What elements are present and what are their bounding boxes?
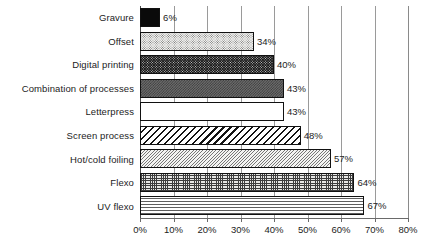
bar [140, 32, 254, 51]
bar-value-label: 6% [163, 12, 177, 23]
x-tick-label: 10% [164, 224, 183, 236]
category-label: Flexo [0, 177, 134, 188]
bar [140, 173, 354, 192]
bar-value-label: 40% [277, 59, 296, 70]
bar [140, 8, 160, 27]
bar-value-label: 64% [357, 177, 376, 188]
bar-row: Combination of processes43% [0, 77, 424, 101]
category-label: Digital printing [0, 59, 134, 70]
bar-with-value: 43% [140, 79, 306, 98]
bar-row: Gravure6% [0, 6, 424, 30]
x-tick-label: 0% [133, 224, 147, 236]
bar-with-value: 67% [140, 196, 386, 215]
x-axis-tick-labels: 0%10%20%30%40%50%60%70%80% [0, 224, 424, 238]
bar-value-label: 43% [287, 83, 306, 94]
bar-with-value: 48% [140, 126, 323, 145]
tickmark-50% [308, 218, 309, 222]
bar-value-label: 43% [287, 106, 306, 117]
bar-row: Digital printing40% [0, 53, 424, 77]
x-tick-label: 80% [398, 224, 417, 236]
bar-with-value: 40% [140, 55, 296, 74]
bar-row: Letterpress43% [0, 100, 424, 124]
bar-value-label: 34% [257, 36, 276, 47]
x-tick-label: 40% [264, 224, 283, 236]
bar-value-label: 48% [304, 130, 323, 141]
category-label: UV flexo [0, 201, 134, 212]
bar-with-value: 57% [140, 149, 353, 168]
bar-rows: Gravure6%Offset34%Digital printing40%Com… [0, 6, 424, 218]
bar [140, 55, 274, 74]
bar [140, 149, 331, 168]
category-label: Hot/cold foiling [0, 154, 134, 165]
bar-row: UV flexo67% [0, 194, 424, 218]
bar-with-value: 6% [140, 8, 177, 27]
bar [140, 196, 364, 215]
tickmark-40% [274, 218, 275, 222]
category-label: Gravure [0, 12, 134, 23]
category-label: Letterpress [0, 106, 134, 117]
category-label: Offset [0, 36, 134, 47]
tickmark-70% [375, 218, 376, 222]
tickmark-20% [207, 218, 208, 222]
x-tick-label: 30% [231, 224, 250, 236]
bar [140, 79, 284, 98]
tickmark-30% [241, 218, 242, 222]
bar-value-label: 57% [334, 153, 353, 164]
bar [140, 102, 284, 121]
bar-chart: Gravure6%Offset34%Digital printing40%Com… [0, 0, 424, 245]
category-label: Combination of processes [0, 83, 134, 94]
x-tick-label: 60% [331, 224, 350, 236]
bar-with-value: 64% [140, 173, 376, 192]
tickmark-10% [174, 218, 175, 222]
bar-row: Hot/cold foiling57% [0, 147, 424, 171]
category-label: Screen process [0, 130, 134, 141]
bar-with-value: 34% [140, 32, 276, 51]
bar-value-label: 67% [367, 200, 386, 211]
tickmark-80% [408, 218, 409, 222]
bar-row: Flexo64% [0, 171, 424, 195]
x-tick-label: 50% [298, 224, 317, 236]
tickmark-60% [341, 218, 342, 222]
bar-with-value: 43% [140, 102, 306, 121]
bar [140, 126, 301, 145]
tickmark-0% [140, 218, 141, 222]
bar-row: Offset34% [0, 30, 424, 54]
x-tick-label: 20% [197, 224, 216, 236]
x-tick-label: 70% [365, 224, 384, 236]
bar-row: Screen process48% [0, 124, 424, 148]
